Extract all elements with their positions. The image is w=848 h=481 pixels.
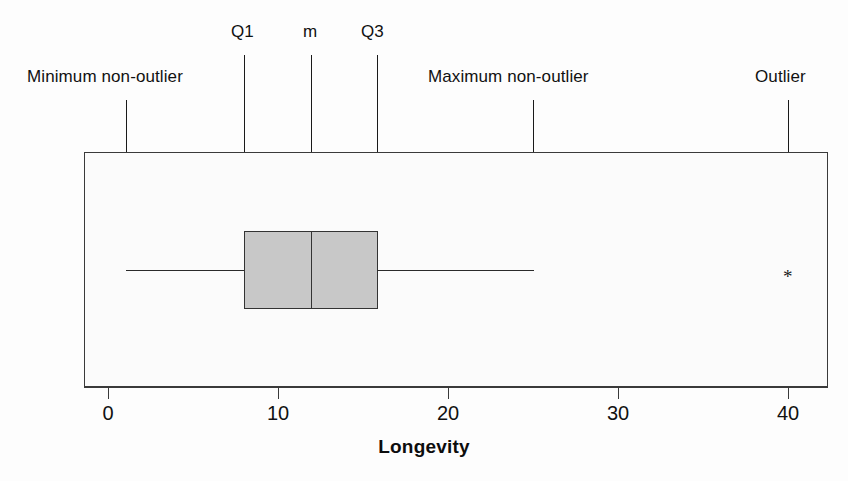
annotation-label-median: m [303,22,317,42]
outlier-point: * [783,272,793,282]
x-axis-line [84,387,828,388]
tick-label-30: 30 [607,402,629,425]
tick-mark-40 [788,388,789,399]
annotation-label-maximum-non-outlier: Maximum non-outlier [428,67,589,87]
tick-label-10: 10 [267,402,289,425]
tick-label-20: 20 [437,402,459,425]
annotation-label-outlier: Outlier [755,67,806,87]
annotation-label-minimum-non-outlier: Minimum non-outlier [27,67,183,87]
x-axis-title: Longevity [0,436,848,458]
tick-mark-20 [448,388,449,399]
annotation-label-q1: Q1 [231,22,254,42]
boxplot-figure: Minimum non-outlier Q1 m Q3 Maximum non-… [0,0,848,481]
tick-mark-0 [108,388,109,399]
tick-label-40: 40 [777,402,799,425]
tick-mark-30 [618,388,619,399]
whisker-right [377,270,534,271]
tick-mark-10 [278,388,279,399]
annotation-label-q3: Q3 [361,22,384,42]
median-line [311,232,312,308]
whisker-left [126,270,245,271]
tick-label-0: 0 [102,402,113,425]
